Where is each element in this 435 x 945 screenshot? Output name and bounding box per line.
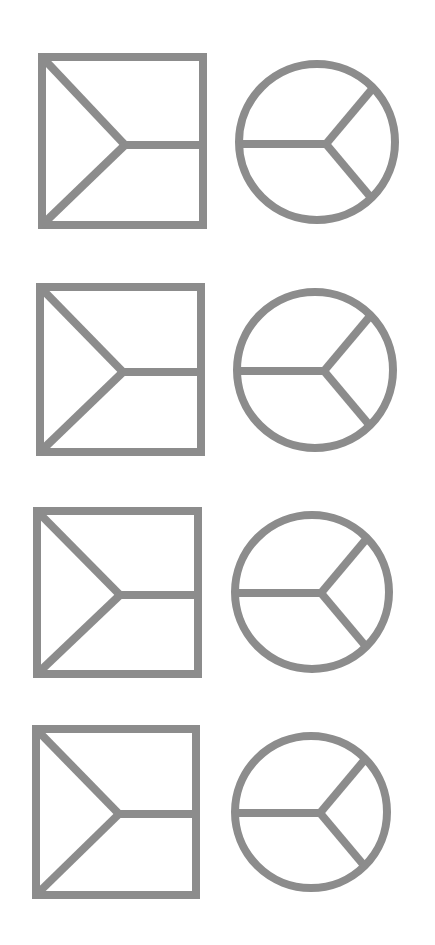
square-with-y-group — [40, 287, 201, 452]
circle-with-y-group — [239, 64, 395, 220]
circle-spoke-upper-right — [326, 144, 371, 198]
circle-with-y-group — [235, 736, 387, 888]
square-with-y-group — [36, 729, 196, 895]
square-figure-row-1 — [28, 43, 217, 239]
square-spoke-upper-left — [37, 511, 120, 595]
square-spoke-lower-left — [40, 372, 123, 452]
square-figure-row-4 — [22, 715, 210, 909]
square-figure-row-2 — [26, 273, 215, 466]
circle-figure-row-4 — [221, 722, 401, 902]
circle-spoke-upper-right — [321, 593, 366, 647]
circle-spoke-upper-right — [320, 813, 364, 866]
circle-figure-row-1 — [225, 50, 409, 234]
square-spoke-upper-left — [36, 729, 119, 814]
square-spoke-lower-left — [37, 595, 120, 674]
circle-with-y-group — [237, 292, 393, 448]
square-with-y-group — [42, 57, 203, 225]
circle-spoke-lower-right — [324, 315, 371, 371]
square-spoke-lower-left — [42, 145, 125, 225]
circle-spoke-upper-right — [324, 371, 370, 426]
circle-spoke-lower-right — [320, 759, 365, 813]
square-spoke-upper-left — [40, 287, 123, 372]
square-spoke-lower-left — [36, 814, 119, 895]
circle-spoke-lower-right — [321, 538, 367, 593]
square-with-y-group — [37, 511, 198, 674]
circle-spoke-lower-right — [326, 88, 373, 144]
square-figure-row-3 — [23, 497, 212, 688]
square-spoke-upper-left — [42, 57, 125, 145]
figure-sheet — [0, 0, 435, 945]
circle-figure-row-2 — [223, 278, 407, 462]
circle-with-y-group — [235, 515, 389, 669]
circle-figure-row-3 — [221, 501, 403, 683]
